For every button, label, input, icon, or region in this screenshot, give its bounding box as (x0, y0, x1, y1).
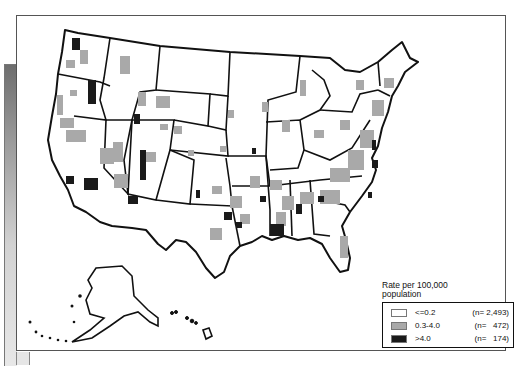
legend-item-mid: 0.3-4.0 (n= 472) (391, 319, 509, 332)
alaska-aleutians (29, 294, 82, 342)
legend-label: >4.0 (415, 334, 463, 343)
swatch-low (391, 309, 407, 317)
legend-count: (n= 2,493) (463, 308, 509, 317)
legend-label: 0.3-4.0 (415, 321, 463, 330)
hawaii-inset (171, 311, 213, 340)
legend-title-line2: population (382, 290, 514, 299)
swatch-mid (391, 322, 407, 330)
alaska-inset (72, 266, 158, 342)
legend-label: <=0.2 (415, 308, 463, 317)
map-legend: Rate per 100,000 population <=0.2 (n= 2,… (382, 281, 514, 348)
legend-count: (n= 472) (463, 321, 509, 330)
legend-box: <=0.2 (n= 2,493) 0.3-4.0 (n= 472) >4.0 (… (382, 302, 514, 348)
swatch-high (391, 335, 407, 343)
legend-count: (n= 174) (463, 334, 509, 343)
legend-item-high: >4.0 (n= 174) (391, 332, 509, 345)
legend-item-low: <=0.2 (n= 2,493) (391, 306, 509, 319)
